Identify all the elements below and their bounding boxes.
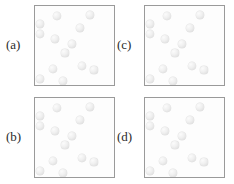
particle-dot	[76, 116, 84, 124]
particle-dot	[159, 157, 167, 165]
particle-dot	[200, 66, 207, 73]
particle-dot	[178, 40, 186, 48]
particle-dot	[146, 167, 154, 175]
particle-dot	[163, 12, 171, 20]
particle-dot	[178, 132, 186, 140]
particle-dot	[161, 35, 169, 43]
particle-dot	[51, 127, 59, 135]
particle-dot	[146, 112, 154, 120]
particle-dot	[49, 157, 57, 165]
particle-dot	[200, 158, 207, 165]
particle-dot	[146, 75, 154, 83]
particle-dot	[186, 24, 194, 32]
particle-dot	[51, 35, 59, 43]
particle-dot	[36, 112, 44, 120]
particle-dot	[53, 104, 61, 112]
particle-dot	[90, 66, 97, 73]
panel-label-b: (b)	[6, 130, 21, 143]
particle-dot	[36, 167, 44, 175]
particle-dot	[188, 154, 196, 162]
particle-dot	[53, 12, 61, 20]
particle-dot	[161, 127, 169, 135]
figure-panel-grid: (a)(b)(c)(d)	[0, 0, 234, 184]
panel-label-a: (a)	[6, 38, 20, 51]
particle-dot	[59, 169, 67, 177]
particle-dot	[36, 30, 44, 38]
particle-dot	[171, 49, 178, 56]
particle-dot	[61, 141, 68, 148]
particle-dot	[36, 75, 44, 83]
particle-dot	[188, 62, 196, 70]
particle-dot	[86, 103, 94, 111]
particle-dot	[146, 30, 154, 38]
particle-dot	[159, 65, 167, 73]
particle-dot	[196, 11, 204, 19]
particle-dot	[68, 40, 76, 48]
particle-dot	[36, 20, 44, 28]
particle-dot	[76, 24, 84, 32]
panel-box-c	[144, 5, 225, 86]
particle-dot	[86, 11, 94, 19]
panel-box-b	[34, 97, 115, 178]
particle-dot	[59, 77, 67, 85]
particle-dot	[36, 122, 44, 130]
particle-dot	[169, 77, 177, 85]
panel-label-d: (d)	[117, 130, 132, 143]
particle-dot	[78, 154, 86, 162]
panel-box-d	[144, 97, 225, 178]
particle-dot	[61, 49, 68, 56]
particle-dot	[146, 20, 154, 28]
panel-box-a	[34, 5, 115, 86]
particle-dot	[196, 103, 204, 111]
particle-dot	[186, 116, 194, 124]
particle-dot	[68, 132, 76, 140]
particle-dot	[146, 122, 154, 130]
particle-dot	[163, 104, 171, 112]
particle-dot	[169, 169, 177, 177]
particle-dot	[90, 158, 97, 165]
particle-dot	[49, 65, 57, 73]
particle-dot	[171, 141, 178, 148]
panel-label-c: (c)	[117, 38, 131, 51]
particle-dot	[78, 62, 86, 70]
